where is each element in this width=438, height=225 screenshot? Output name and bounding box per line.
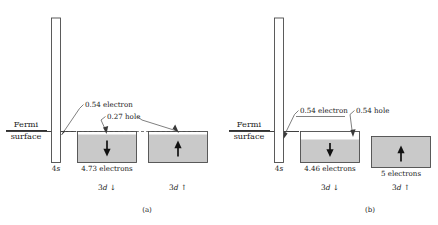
panel-b-4s-band: 4s	[275, 18, 284, 173]
panel-b-fermi-label: Fermi surface	[229, 119, 270, 141]
panel-b-hole-annotation: 0.54 hole	[350, 106, 389, 137]
panel-b-s-electron-label: 0.54 electron	[300, 106, 348, 115]
panel-a-4s-label: 4s	[52, 164, 61, 173]
panel-b-3d-up-count: 5 electrons	[381, 169, 421, 178]
panel-b-s-electron-annotation: 0.54 electron	[284, 106, 349, 139]
panel-a-hole-annotation: 0.27 hole	[101, 112, 179, 134]
panel-a-3d-up-box: 3d ↑	[149, 132, 208, 193]
band-structure-figure: Fermi surface 4s 0.54 electron	[0, 0, 438, 225]
fermi-label-line1: Fermi	[14, 119, 39, 129]
panel-a-caption: (a)	[142, 206, 152, 214]
panel-b-3d-up-box: 5 electrons 3d ↑	[372, 137, 431, 193]
panel-a-3d-down-box: 4.73 electrons 3d ↓	[78, 132, 137, 193]
panel-b-hole-label: 0.54 hole	[356, 106, 389, 115]
panel-b-4s-label: 4s	[275, 164, 284, 173]
panel-b-3d-up-label: 3d ↑	[392, 183, 410, 192]
panel-b-fermi-label-line2: surface	[234, 131, 265, 141]
panel-b: Fermi surface 4s 0.54 electron 4.4	[229, 18, 431, 214]
panel-a-s-electron-label: 0.54 electron	[85, 100, 133, 109]
panel-a: Fermi surface 4s 0.54 electron	[6, 18, 208, 214]
panel-a-3d-down-label: 3d ↓	[98, 183, 116, 192]
panel-b-caption: (b)	[365, 206, 375, 214]
panel-a-fermi-label: Fermi surface	[6, 119, 47, 141]
fermi-label-line2: surface	[11, 131, 42, 141]
panel-b-3d-down-label: 3d ↓	[321, 183, 339, 192]
panel-a-hole-label: 0.27 hole	[107, 112, 140, 121]
panel-b-3d-down-count: 4.46 electrons	[304, 164, 356, 173]
panel-a-3d-up-label: 3d ↑	[169, 183, 187, 192]
panel-b-fermi-label-line1: Fermi	[237, 119, 262, 129]
panel-a-4s-band: 4s	[52, 18, 61, 173]
panel-b-3d-down-box: 4.46 electrons 3d ↓	[301, 132, 360, 193]
panel-a-3d-down-count: 4.73 electrons	[81, 164, 133, 173]
